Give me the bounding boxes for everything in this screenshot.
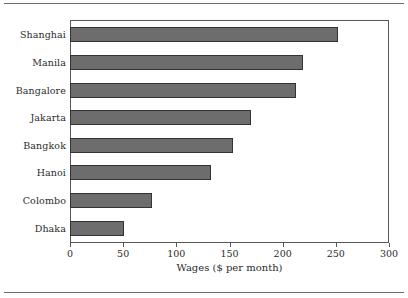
x-axis-tick-label: 50 (117, 248, 129, 259)
bar-row (71, 76, 389, 104)
x-axis-title: Wages ($ per month) (70, 262, 389, 273)
bar-row (71, 214, 389, 242)
x-axis-tick-label: 200 (274, 248, 292, 259)
bar (70, 165, 211, 180)
x-axis-tick-label: 300 (380, 248, 398, 259)
bar-row (71, 104, 389, 132)
bars-layer (71, 21, 389, 242)
bar (70, 27, 338, 42)
x-axis-tick (283, 243, 284, 247)
category-label: Manila (0, 49, 66, 77)
x-axis-tick (176, 243, 177, 247)
bar (70, 110, 251, 125)
x-axis-tick (123, 243, 124, 247)
x-axis-tick-label: 150 (220, 248, 238, 259)
bar-row (71, 49, 389, 77)
category-label: Bangalore (0, 76, 66, 104)
category-label: Dhaka (0, 214, 66, 242)
x-axis-tick-label: 100 (167, 248, 185, 259)
bar-chart-figure: ShanghaiManilaBangaloreJakartaBangkokHan… (0, 0, 408, 298)
category-axis-labels: ShanghaiManilaBangaloreJakartaBangkokHan… (0, 21, 66, 242)
bar (70, 138, 233, 153)
bar-row (71, 159, 389, 187)
category-label: Shanghai (0, 21, 66, 49)
x-axis-tick (70, 243, 71, 247)
category-label: Jakarta (0, 104, 66, 132)
x-axis-tick (389, 243, 390, 247)
bar-row (71, 21, 389, 49)
category-label: Colombo (0, 187, 66, 215)
bar-row (71, 187, 389, 215)
category-label: Bangkok (0, 132, 66, 160)
bar-row (71, 132, 389, 160)
x-axis-tick-label: 0 (67, 248, 73, 259)
category-label: Hanoi (0, 159, 66, 187)
bar (70, 221, 124, 236)
x-axis-tick (336, 243, 337, 247)
bar (70, 193, 152, 208)
bar (70, 83, 296, 98)
bar (70, 55, 303, 70)
x-axis-tick-label: 250 (327, 248, 345, 259)
x-axis-tick (230, 243, 231, 247)
